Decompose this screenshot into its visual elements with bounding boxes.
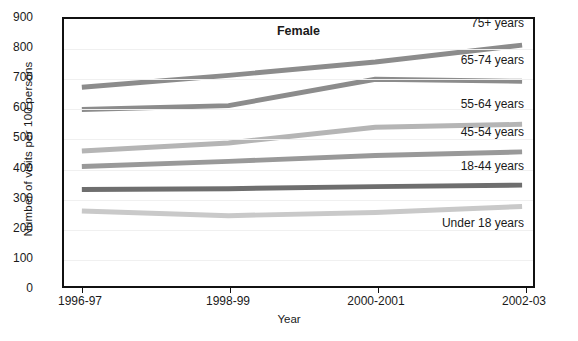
gridline [64,49,533,50]
y-axis-tick-label: 400 [0,162,33,174]
series-label-under-18-years: Under 18 years [304,216,524,230]
x-axis-tick-label: 1998-99 [168,294,288,308]
chart-container: Number of visits per 100 persons Female … [0,0,578,341]
y-axis-tick-label: 800 [0,41,33,53]
y-axis-tick-label: 500 [0,131,33,143]
gridline [64,200,533,201]
x-axis-tick-mark [230,286,231,293]
y-axis-tick-label: 600 [0,101,33,113]
series-line [82,206,522,215]
y-axis-tick-label: 300 [0,192,33,204]
x-axis-title: Year [0,313,578,325]
series-label-18-44-years: 18-44 years [304,159,524,173]
x-axis-tick-mark [82,286,83,293]
x-axis-tick-mark [378,286,379,293]
y-axis-tick-label: 100 [0,252,33,264]
x-axis-tick-label: 2002-03 [464,294,578,308]
gridline [64,79,533,80]
series-label-75-years: 75+ years [304,16,524,30]
x-axis-tick-label: 2000-2001 [316,294,436,308]
y-axis-tick-label: 900 [0,11,33,23]
series-line [82,185,522,189]
series-label-55-64-years: 55-64 years [304,97,524,111]
y-axis-tick-label: 0 [0,282,33,294]
y-axis-tick-label: 700 [0,71,33,83]
gridline [64,260,533,261]
x-axis-tick-label: 1996-97 [20,294,140,308]
series-label-45-54-years: 45-54 years [304,125,524,139]
gridline [64,139,533,140]
y-axis-tick-label: 200 [0,222,33,234]
series-label-65-74-years: 65-74 years [304,53,524,67]
x-axis-tick-mark [526,286,527,293]
